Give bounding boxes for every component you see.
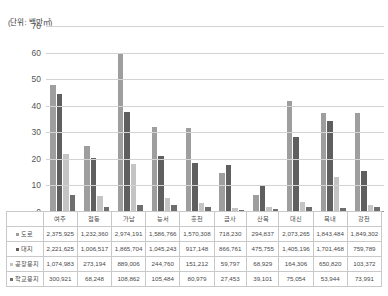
- bar-공장용지-점동: [97, 196, 103, 211]
- gridline-70: [46, 26, 384, 27]
- table-cell-공장용지-여주: 1,074,983: [43, 257, 77, 272]
- table-corner-cell: [7, 212, 44, 227]
- table-column-header-점동: 점동: [77, 212, 111, 227]
- table-cell-도로-대신: 2,073,265: [279, 227, 313, 242]
- table-column-header-대신: 대신: [279, 212, 313, 227]
- bar-대지-강천: [361, 171, 367, 211]
- table-cell-공장용지-흥천: 151,212: [180, 257, 214, 272]
- table-cell-공장용지-북내: 650,820: [313, 257, 347, 272]
- bar-대지-산북: [260, 186, 266, 211]
- table-cell-학교용지-가남: 108,862: [112, 272, 146, 287]
- table-cell-대지-강천: 759,789: [347, 242, 381, 257]
- table-cell-공장용지-능서: 244,760: [146, 257, 180, 272]
- table-cell-학교용지-점동: 68,248: [77, 272, 111, 287]
- legend-swatch-icon-대지: [16, 248, 19, 251]
- bar-group-능서: [147, 26, 181, 211]
- bar-공장용지-흥천: [199, 203, 205, 211]
- bar-group-가남: [114, 26, 148, 211]
- table-row: 대지2,221,6251,006,5171,865,7041,045,24391…: [7, 242, 382, 257]
- table-row: 공장용지1,074,983273,194889,006244,760151,21…: [7, 257, 382, 272]
- gridline-10: [46, 185, 384, 186]
- legend-swatch-icon-공장용지: [10, 263, 13, 266]
- table-cell-도로-산북: 294,837: [246, 227, 278, 242]
- bar-group-강천: [350, 26, 384, 211]
- table-column-header-북내: 북내: [313, 212, 347, 227]
- table-cell-대지-대신: 1,405,196: [279, 242, 313, 257]
- table-cell-학교용지-흥천: 80,979: [180, 272, 214, 287]
- table-row-label-대지: 대지: [7, 242, 44, 257]
- table-column-header-능서: 능서: [146, 212, 180, 227]
- gridline-50: [46, 79, 384, 80]
- y-axis-tick-20: 20: [32, 154, 41, 164]
- bar-대지-흥천: [192, 163, 198, 211]
- legend-swatch-icon-학교용지: [10, 278, 13, 281]
- bar-group-금사: [215, 26, 249, 211]
- y-axis-tick-70: 70: [32, 21, 41, 31]
- table-cell-공장용지-산북: 68,929: [246, 257, 278, 272]
- bar-도로-대신: [287, 101, 293, 211]
- table-cell-대지-산북: 475,755: [246, 242, 278, 257]
- gridline-60: [46, 53, 384, 54]
- row-label-text: 대지: [21, 245, 33, 252]
- bar-도로-북내: [321, 113, 327, 211]
- table-cell-공장용지-점동: 273,194: [77, 257, 111, 272]
- table-cell-학교용지-여주: 300,921: [43, 272, 77, 287]
- table-cell-도로-능서: 1,586,766: [146, 227, 180, 242]
- table-cell-도로-흥천: 1,570,308: [180, 227, 214, 242]
- table-cell-학교용지-대신: 75,054: [279, 272, 313, 287]
- bar-공장용지-능서: [165, 198, 171, 211]
- table-body: 도로2,375,9251,232,3602,974,1911,586,7661,…: [7, 227, 382, 287]
- y-axis: 010203040506070: [0, 26, 46, 212]
- row-label-text: 도로: [21, 230, 33, 237]
- bar-group-점동: [80, 26, 114, 211]
- bar-대지-북내: [327, 121, 333, 211]
- plot-area: [46, 26, 384, 212]
- bar-도로-흥천: [186, 128, 192, 211]
- table-column-header-강천: 강천: [347, 212, 381, 227]
- table-cell-학교용지-강천: 73,991: [347, 272, 381, 287]
- table-cell-공장용지-가남: 889,006: [112, 257, 146, 272]
- data-table: 여주점동가남능서흥천금사산북대신북내강천 도로2,375,9251,232,36…: [6, 211, 382, 287]
- y-axis-tick-50: 50: [32, 74, 41, 84]
- bar-chart: 010203040506070: [0, 26, 388, 212]
- bar-group-여주: [46, 26, 80, 211]
- bar-대지-가남: [124, 112, 130, 211]
- y-axis-tick-60: 60: [32, 48, 41, 58]
- bar-group-대신: [283, 26, 317, 211]
- table-row-label-도로: 도로: [7, 227, 44, 242]
- table-cell-대지-점동: 1,006,517: [77, 242, 111, 257]
- table-row: 학교용지300,92168,248108,862105,48480,97927,…: [7, 272, 382, 287]
- table-row-label-공장용지: 공장용지: [7, 257, 44, 272]
- table-cell-학교용지-북내: 53,944: [313, 272, 347, 287]
- table-cell-대지-능서: 1,045,243: [146, 242, 180, 257]
- bar-groups: [46, 26, 384, 211]
- table-cell-공장용지-대신: 164,306: [279, 257, 313, 272]
- table-cell-학교용지-능서: 105,484: [146, 272, 180, 287]
- table-cell-도로-금사: 718,230: [214, 227, 246, 242]
- gridline-20: [46, 159, 384, 160]
- bar-대지-금사: [226, 165, 232, 211]
- bar-group-북내: [316, 26, 350, 211]
- table-cell-대지-여주: 2,221,625: [43, 242, 77, 257]
- table-row: 도로2,375,9251,232,3602,974,1911,586,7661,…: [7, 227, 382, 242]
- bar-대지-능서: [158, 156, 164, 211]
- table-cell-도로-가남: 2,974,191: [112, 227, 146, 242]
- legend-swatch-icon-도로: [16, 233, 19, 236]
- bar-대지-여주: [57, 94, 63, 211]
- table-cell-대지-금사: 866,761: [214, 242, 246, 257]
- bar-도로-산북: [253, 195, 259, 211]
- table-cell-도로-점동: 1,232,360: [77, 227, 111, 242]
- bar-공장용지-가남: [131, 164, 137, 211]
- y-axis-tick-10: 10: [32, 180, 41, 190]
- bar-group-산북: [249, 26, 283, 211]
- y-axis-tick-40: 40: [32, 101, 41, 111]
- bar-도로-점동: [84, 146, 90, 211]
- table-cell-대지-북내: 1,701,468: [313, 242, 347, 257]
- table-cell-공장용지-금사: 59,797: [214, 257, 246, 272]
- row-label-text: 공장용지: [15, 260, 39, 267]
- table-column-header-흥천: 흥천: [180, 212, 214, 227]
- bar-도로-강천: [355, 113, 361, 211]
- bar-도로-금사: [219, 173, 225, 211]
- row-label-text: 학교용지: [15, 275, 39, 282]
- table-column-header-금사: 금사: [214, 212, 246, 227]
